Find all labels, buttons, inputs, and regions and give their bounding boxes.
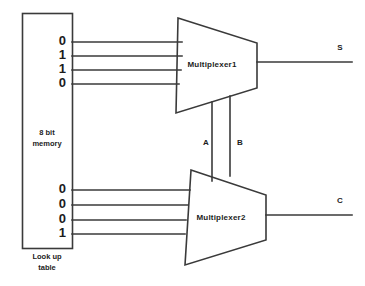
diagram-canvas: 0 1 1 0 8 bit memory 0 0 0 1 Look up tab…: [0, 0, 365, 286]
mux2-label: Multiplexer2: [190, 213, 252, 222]
mux2-input-wires: [72, 190, 190, 234]
memory-bit-bottom-3: 1: [44, 226, 66, 241]
mux1-input-wires: [72, 42, 182, 84]
memory-label-line2: memory: [17, 139, 77, 150]
lookup-table-caption-line2: table: [18, 263, 76, 274]
control-a-label: A: [200, 138, 212, 147]
output-s-label: S: [334, 43, 346, 52]
memory-label-line1: 8 bit: [17, 128, 77, 139]
output-c-label: C: [334, 196, 346, 205]
memory-bit-bottom-1: 0: [44, 197, 66, 212]
memory-bit-bottom-0: 0: [44, 182, 66, 197]
control-b-label: B: [234, 138, 246, 147]
memory-bit-top-3: 0: [44, 76, 66, 91]
mux1-label: Multiplexer1: [181, 60, 243, 69]
lookup-table-caption-line1: Look up: [18, 252, 76, 263]
